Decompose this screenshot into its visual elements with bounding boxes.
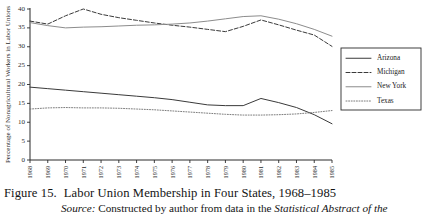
x-axis-tick-label: 1980 [240, 166, 247, 178]
series-line-arizona [30, 87, 332, 124]
source-publication: Statistical Abstract of the [274, 202, 387, 214]
x-axis-tick-label: 1979 [222, 166, 229, 178]
x-axis-tick-label: 1985 [328, 166, 335, 178]
figure-caption: Figure 15.Labor Union Membership in Four… [0, 186, 425, 214]
x-axis-tick-label: 1982 [275, 166, 282, 178]
x-axis-tick-label: 1978 [204, 166, 211, 178]
x-axis-tick-label: 1968 [26, 166, 33, 178]
x-axis-tick-label: 1975 [151, 166, 158, 178]
y-axis-title: Percentage of Nonagricultural Workers in… [4, 6, 12, 163]
x-axis-tick-label: 1977 [186, 166, 193, 178]
x-axis-tick-label: 1970 [62, 166, 69, 178]
line-chart: 0510152025303540Percentage of Nonagricul… [0, 0, 425, 186]
caption-title-line: Figure 15.Labor Union Membership in Four… [0, 186, 425, 201]
y-axis-tick-label: 35 [18, 23, 26, 31]
legend-label-arizona: Arizona [377, 54, 401, 62]
y-axis-tick-label: 30 [18, 42, 26, 50]
x-axis-tick-label: 1969 [44, 166, 51, 178]
figure-number: Figure 15. [4, 186, 57, 200]
series-line-texas [30, 108, 332, 116]
y-axis-tick-label: 5 [22, 137, 26, 145]
x-axis-tick-label: 1983 [293, 166, 300, 178]
x-axis-tick-label: 1984 [311, 166, 318, 178]
y-axis-tick-label: 15 [18, 99, 26, 107]
x-axis-tick-label: 1976 [169, 166, 176, 178]
x-axis-tick-label: 1973 [115, 166, 122, 178]
x-axis-tick-label: 1974 [133, 166, 140, 178]
legend-label-new-york: New York [377, 82, 407, 90]
caption-source-line: Source: Constructed by author from data … [0, 202, 425, 214]
source-text: Constructed by author from data in the [98, 202, 271, 214]
source-label: Source: [61, 202, 95, 214]
y-axis-tick-label: 40 [18, 5, 26, 13]
y-axis-tick-label: 0 [22, 156, 26, 164]
x-axis-tick-label: 1972 [97, 166, 104, 178]
figure-page: 0510152025303540Percentage of Nonagricul… [0, 0, 425, 223]
legend-label-michigan: Michigan [377, 68, 405, 76]
legend-label-texas: Texas [377, 97, 394, 105]
x-axis-tick-label: 1971 [80, 166, 87, 178]
figure-title: Labor Union Membership in Four States, 1… [64, 186, 336, 200]
x-axis-tick-label: 1981 [257, 166, 264, 178]
y-axis-tick-label: 20 [18, 80, 26, 88]
chart-figure: 0510152025303540Percentage of Nonagricul… [0, 0, 425, 186]
y-axis-tick-label: 10 [18, 118, 26, 126]
y-axis-tick-label: 25 [18, 61, 26, 69]
